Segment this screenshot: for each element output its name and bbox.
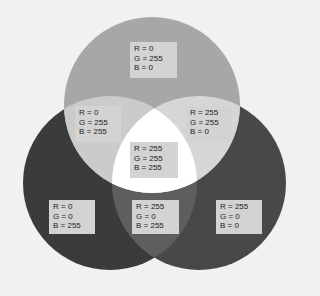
- label-magenta-b: B = 255: [136, 221, 175, 231]
- label-magenta: R = 255 G = 0 B = 255: [132, 200, 179, 234]
- label-yellow-b: B = 0: [190, 127, 228, 137]
- label-blue-b: B = 255: [53, 221, 91, 231]
- label-blue-r: R = 0: [53, 202, 91, 212]
- label-red-g: G = 0: [220, 212, 258, 222]
- label-red: R = 255 G = 0 B = 0: [216, 200, 262, 234]
- label-magenta-r: R = 255: [136, 202, 175, 212]
- label-red-b: B = 0: [220, 221, 258, 231]
- label-green: R = 0 G = 255 B = 0: [130, 42, 177, 78]
- label-white: R = 255 G = 255 B = 255: [130, 142, 178, 178]
- label-yellow-g: G = 255: [190, 118, 228, 128]
- label-blue: R = 0 G = 0 B = 255: [49, 200, 95, 234]
- label-cyan-r: R = 0: [79, 108, 117, 118]
- label-yellow: R = 255 G = 255 B = 0: [186, 106, 232, 142]
- label-cyan-b: B = 255: [79, 127, 117, 137]
- label-white-g: G = 255: [134, 154, 174, 164]
- label-green-r: R = 0: [134, 44, 173, 54]
- label-green-b: B = 0: [134, 63, 173, 73]
- label-white-b: B = 255: [134, 163, 174, 173]
- label-yellow-r: R = 255: [190, 108, 228, 118]
- label-blue-g: G = 0: [53, 212, 91, 222]
- label-cyan: R = 0 G = 255 B = 255: [75, 106, 121, 142]
- label-magenta-g: G = 0: [136, 212, 175, 222]
- label-cyan-g: G = 255: [79, 118, 117, 128]
- label-green-g: G = 255: [134, 54, 173, 64]
- label-white-r: R = 255: [134, 144, 174, 154]
- label-red-r: R = 255: [220, 202, 258, 212]
